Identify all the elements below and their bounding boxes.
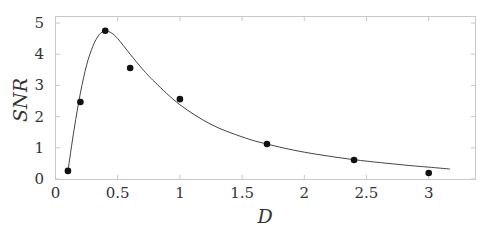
y-tick-label: 5: [34, 14, 44, 32]
y-tick-label: 0: [34, 170, 44, 188]
data-points: [65, 28, 432, 177]
y-tick-label: 2: [34, 108, 44, 126]
x-tick-label: 1.5: [230, 184, 254, 202]
y-tick-label: 1: [34, 139, 44, 157]
y-tick-label: 3: [34, 76, 44, 94]
x-tick-label: 0.5: [106, 184, 130, 202]
x-tick-label: 1: [175, 184, 185, 202]
data-point: [127, 65, 134, 72]
x-tick-label: 2.5: [355, 184, 379, 202]
x-tick-label: 0: [51, 184, 61, 202]
snr-vs-d-chart: 00.511.522.53 012345 D SNR: [0, 0, 486, 240]
y-axis-label: SNR: [9, 78, 31, 122]
x-axis-ticks: 00.511.522.53: [51, 17, 434, 203]
x-axis-label: D: [256, 205, 272, 227]
x-tick-label: 2: [300, 184, 310, 202]
data-point: [65, 168, 72, 175]
data-point: [102, 28, 109, 35]
fit-curve: [68, 31, 450, 171]
plot-frame: [56, 17, 476, 180]
data-point: [177, 96, 184, 103]
data-point: [425, 170, 432, 177]
y-axis-ticks: 012345: [34, 14, 475, 188]
data-point: [264, 141, 271, 148]
data-point: [351, 157, 358, 164]
data-point: [77, 99, 84, 106]
x-tick-label: 3: [424, 184, 434, 202]
y-tick-label: 4: [34, 45, 44, 63]
